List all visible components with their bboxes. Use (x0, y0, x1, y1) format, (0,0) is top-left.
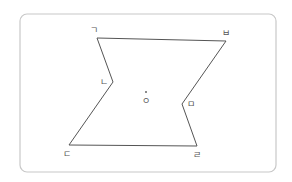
vertex-label: ㄴ (100, 77, 108, 87)
vertex-label: ㄱ (90, 25, 98, 35)
vertex-label: ㄷ (63, 149, 71, 159)
center-label: ㅇ (142, 96, 150, 106)
vertex-label: ㄹ (193, 150, 201, 160)
diagram-frame (20, 14, 276, 172)
center-point (145, 91, 147, 93)
vertex-label: ㅁ (187, 99, 195, 109)
geometry-diagram: ㄱㅂㅁㄹㄷㄴ ㅇ (0, 0, 292, 182)
vertex-label: ㅂ (222, 28, 230, 38)
